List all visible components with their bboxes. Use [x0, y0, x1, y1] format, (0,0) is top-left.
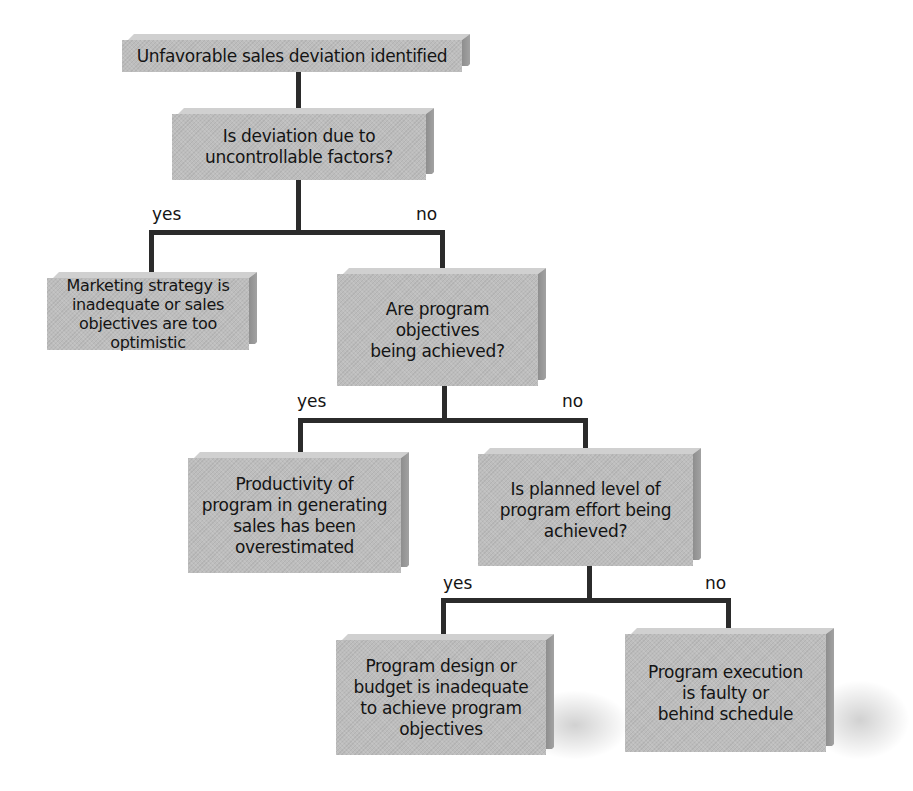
connector-q3-horizontal — [441, 598, 731, 603]
connector-q1-no — [440, 230, 445, 274]
edge-label-q2-no: no — [562, 392, 583, 410]
edge-label-q1-no: no — [416, 205, 437, 223]
connector-q2-horizontal — [298, 418, 588, 423]
edge-label-q2-yes: yes — [297, 392, 326, 410]
connector-q1-horizontal — [149, 230, 445, 235]
connector-q2-down — [442, 386, 447, 422]
connector-q3-down — [587, 566, 592, 602]
node-question-program-effort: Is planned level of program effort being… — [478, 454, 693, 566]
connector-q1-down — [296, 180, 301, 234]
connector-start-q1 — [296, 72, 301, 114]
node-result-marketing-strategy: Marketing strategy is inadequate or sale… — [47, 278, 249, 350]
node-result-productivity-overestimated: Productivity of program in generating sa… — [188, 458, 401, 573]
edge-label-q3-no: no — [705, 574, 726, 592]
edge-label-q3-yes: yes — [443, 574, 472, 592]
connector-q3-yes — [441, 598, 446, 640]
node-question-program-objectives: Are program objectives being achieved? — [337, 274, 538, 386]
edge-label-q1-yes: yes — [152, 205, 181, 223]
node-result-program-design-inadequate: Program design or budget is inadequate t… — [336, 640, 546, 755]
connector-q1-yes — [149, 230, 154, 278]
node-question-uncontrollable-factors: Is deviation due to uncontrollable facto… — [172, 114, 426, 180]
node-start: Unfavorable sales deviation identified — [122, 40, 462, 72]
node-result-program-execution-faulty: Program execution is faulty or behind sc… — [625, 634, 826, 752]
